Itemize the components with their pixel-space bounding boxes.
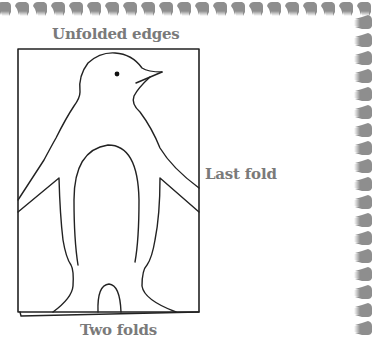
label-two-folds: Two folds — [80, 321, 157, 339]
penguin-eye — [115, 72, 120, 77]
penguin-right-outline — [133, 77, 199, 188]
paper-rectangle — [18, 49, 199, 312]
penguin-right-wing — [142, 178, 199, 312]
penguin-left-wing — [18, 178, 73, 312]
label-unfolded-edges: Unfolded edges — [52, 25, 180, 43]
label-last-fold: Last fold — [205, 165, 277, 183]
penguin-feet-arch — [98, 284, 121, 312]
penguin-diagram — [0, 0, 372, 345]
penguin-belly — [74, 145, 139, 265]
penguin-left-outline — [18, 53, 162, 200]
